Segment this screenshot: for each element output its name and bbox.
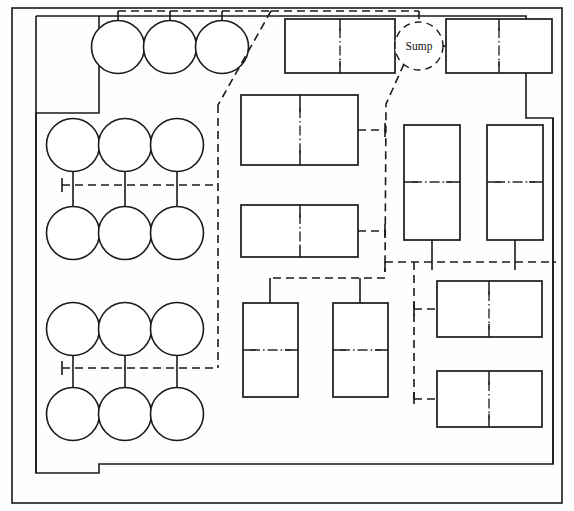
circular-tank[interactable] bbox=[47, 207, 100, 260]
circular-tank[interactable] bbox=[99, 388, 152, 441]
circular-tank[interactable] bbox=[92, 21, 145, 74]
circular-tank[interactable] bbox=[151, 388, 204, 441]
floor-plan-canvas: Sump bbox=[0, 0, 574, 511]
sump-assembly[interactable]: Sump bbox=[395, 22, 443, 70]
circular-tank[interactable] bbox=[151, 119, 204, 172]
circular-tank[interactable] bbox=[144, 21, 197, 74]
circular-tank[interactable] bbox=[99, 119, 152, 172]
sump-label: Sump bbox=[406, 40, 433, 53]
circular-tank[interactable] bbox=[99, 303, 152, 356]
circular-tank[interactable] bbox=[47, 303, 100, 356]
sump-to-main-trunk-pipe bbox=[385, 64, 404, 272]
circular-tank[interactable] bbox=[151, 303, 204, 356]
circular-tank[interactable] bbox=[196, 21, 249, 74]
circular-tank[interactable] bbox=[151, 207, 204, 260]
plant-layout-diagram: Sump bbox=[0, 0, 574, 511]
tank-farm bbox=[47, 21, 249, 441]
circular-tank[interactable] bbox=[99, 207, 152, 260]
circular-tank[interactable] bbox=[47, 388, 100, 441]
circular-tank[interactable] bbox=[47, 119, 100, 172]
